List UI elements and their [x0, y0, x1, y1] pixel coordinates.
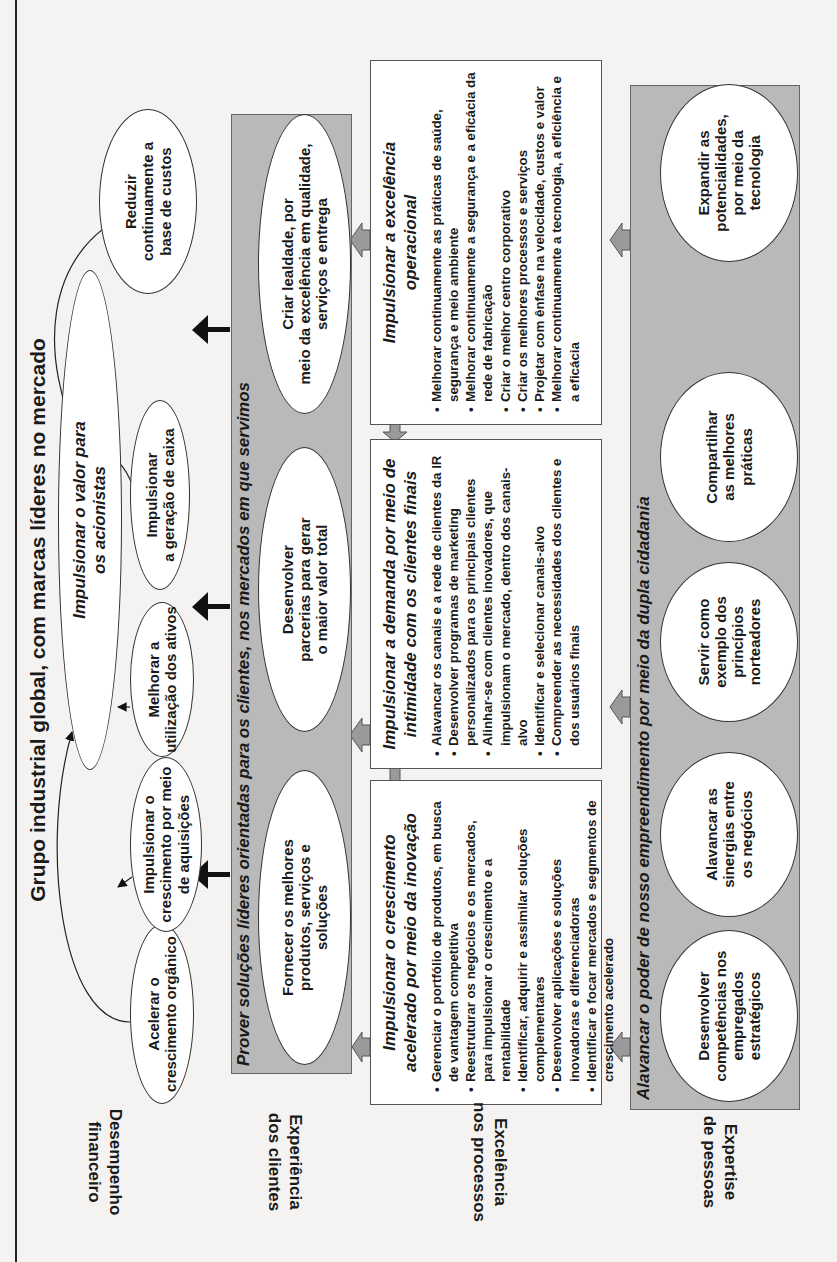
- process-to-customer-arrows: [350, 223, 370, 1062]
- objective-shareholder-value: Impulsionar o valor paraos acionistas: [58, 270, 122, 770]
- process-item: Gerenciar o portfólio de produtos, em bu…: [428, 791, 463, 1094]
- process-item: Desenvolver programas de marketing perso…: [445, 450, 480, 758]
- process-item: Reestruturar os negócios e os mercados, …: [462, 791, 514, 1094]
- objective-loyalty: Criar lealdade, pormeio da excelência em…: [258, 114, 351, 414]
- customer-band-title: Prover soluções líderes orientadas para …: [234, 382, 254, 1066]
- objective-partnerships: Desenvolverparcerias para geraro maior v…: [258, 447, 351, 732]
- process-box-innovation: Impulsionar o crescimentoacelerado por m…: [370, 780, 602, 1105]
- process-item: Alavancar os canais e a rede de clientes…: [428, 450, 445, 758]
- arrow-organic-to-value: [57, 732, 130, 1022]
- process-box-customer-intimacy: Impulsionar a demanda por meio deintimid…: [370, 439, 602, 769]
- process-box-title: Impulsionar a excelênciaoperacional: [379, 71, 422, 414]
- people-band-title: Alavancar o poder de nosso empreendiment…: [634, 496, 654, 1100]
- process-box-operational-excellence: Impulsionar a excelênciaoperacional Melh…: [370, 60, 602, 425]
- process-item: Identificar e focar mercados e segmentos…: [583, 791, 618, 1094]
- objective-best-products: Fornecer os melhoresprodutos, serviços e…: [258, 770, 351, 1065]
- process-item: Melhorar continuamente a segurança e a e…: [462, 71, 497, 414]
- process-item: Melhorar continuamente as práticas de sa…: [428, 71, 463, 414]
- process-box-title: Impulsionar a demanda por meio deintimid…: [379, 450, 422, 758]
- process-item: Identificar, adquirir e assimilar soluçõ…: [514, 791, 549, 1094]
- perspective-label-financial: Desempenhofinanceiro: [30, 1102, 180, 1222]
- process-item: Melhorar continuamente a tecnologia, a e…: [548, 71, 583, 414]
- objective-cash-generation: Impulsionara geração de caixa: [130, 400, 190, 590]
- process-item: Projetar com ênfase na velocidade, custo…: [531, 71, 548, 414]
- objective-develop-competencies: Desenvolvercompetências nosempregadosest…: [660, 930, 798, 1102]
- objective-guiding-principles: Servir comoexemplo dosprincípiosnorteado…: [660, 562, 798, 722]
- objective-leverage-synergies: Alavancar assinergias entreos negócios: [660, 752, 798, 917]
- process-item: Identificar e selecionar canais-alvo: [531, 450, 548, 758]
- objective-asset-utilization: Melhorar autilização dos ativos: [130, 602, 194, 757]
- process-item: Criar os melhores processos e serviços: [514, 71, 531, 414]
- perspective-label-process: Excelêncianos processos: [420, 1102, 560, 1222]
- process-item: Alinhar-se com clientes inovadores, que …: [479, 450, 531, 758]
- arrow-acquisitions-to-value: [118, 877, 132, 887]
- objective-organic-growth: Acelerar ocrescimento orgânico: [130, 924, 194, 1104]
- objective-cost-reduction: Reduzircontinuamente abase de custos: [99, 109, 197, 294]
- objective-expand-technology: Expandir aspotencialidades,por meio date…: [660, 84, 798, 262]
- objective-share-best-practices: Compartilharas melhorespráticas: [660, 372, 798, 542]
- objective-acquisition-growth: Impulsionar ocrescimento por meiode aqui…: [130, 757, 202, 932]
- perspective-label-people: Expertisede pessoas: [650, 1102, 790, 1222]
- diagram-title: Grupo industrial global, com marcas líde…: [26, 300, 50, 940]
- process-item: Desenvolver aplicações e soluções inovad…: [548, 791, 583, 1094]
- process-box-title: Impulsionar o crescimentoacelerado por m…: [379, 791, 422, 1094]
- perspective-label-customer: Experiênciados clientes: [215, 1102, 355, 1222]
- process-item: Criar o melhor centro corporativo: [497, 71, 514, 414]
- process-item: Compreender as necessidades dos clientes…: [548, 450, 583, 758]
- strategy-map: Grupo industrial global, com marcas líde…: [0, 0, 837, 1262]
